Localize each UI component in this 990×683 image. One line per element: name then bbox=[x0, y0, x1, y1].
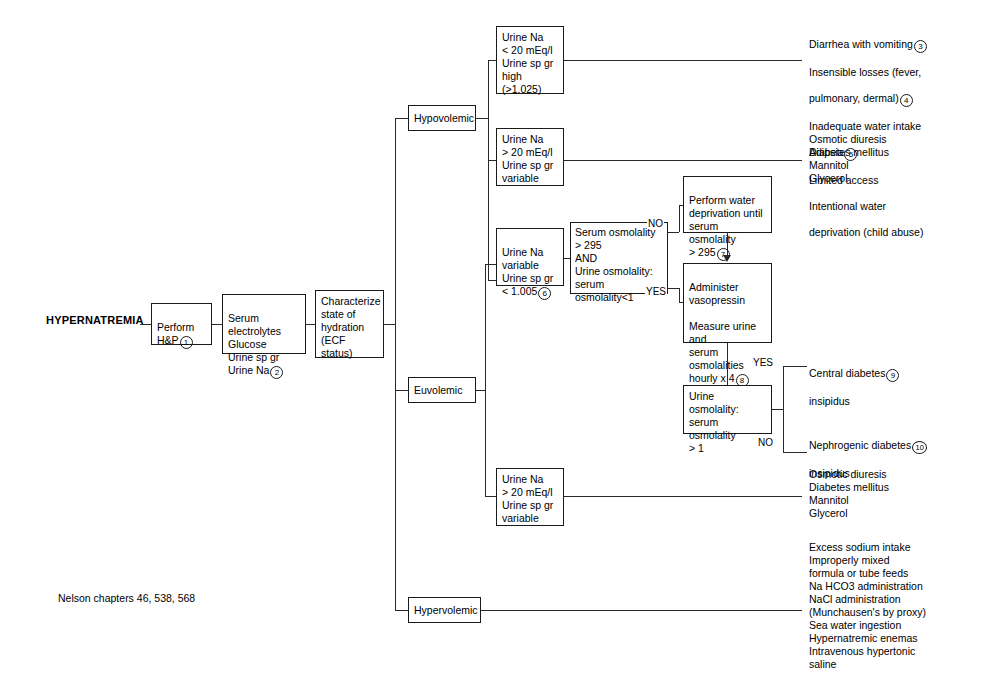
connector-euv-high-na-to-outcomes bbox=[564, 496, 802, 497]
connector-ratio-no bbox=[783, 452, 807, 453]
outcome-line-deprivation-abuse: deprivation (child abuse) bbox=[809, 226, 923, 238]
outcome-central-di-line2: insipidus bbox=[809, 395, 850, 407]
outcome-osmotic-diuresis-hypovolemic: Osmotic diuresis Diabetes mellitus Manni… bbox=[809, 133, 984, 185]
connector-hypo-branch-1 bbox=[488, 60, 496, 61]
node-hypervolemic[interactable]: Hypervolemic bbox=[408, 597, 481, 623]
outcome-line-inadequate-intake: Inadequate water intake bbox=[809, 120, 921, 132]
connector-hypo-high-na-to-outcomes bbox=[564, 160, 802, 161]
connector-serum-osm-yes bbox=[668, 288, 679, 289]
outcome-nephrogenic-di-line1: Nephrogenic diabetes bbox=[809, 439, 911, 451]
outcome-hypervolemic-causes: Excess sodium intake Improperly mixed fo… bbox=[809, 541, 989, 671]
connector-to-hypovolemic bbox=[395, 118, 408, 119]
ref-number-3: 3 bbox=[914, 40, 927, 53]
label-yes-upper: YES bbox=[645, 286, 667, 297]
connector-to-euvolemic bbox=[395, 390, 408, 391]
connector-characterize-out bbox=[384, 324, 395, 325]
node-euv-urine-na-high[interactable]: Urine Na > 20 mEq/l Urine sp gr variable bbox=[496, 468, 564, 526]
connector-hypo-branch-3 bbox=[488, 280, 496, 281]
connector-serum-osm-no-vert bbox=[679, 205, 680, 232]
connector-euv-branch-1 bbox=[485, 264, 496, 265]
connector-hypovolemic-out bbox=[476, 118, 488, 119]
flowchart-canvas: HYPERNATREMIA Nelson chapters 46, 538, 5… bbox=[0, 0, 990, 683]
outcome-osmotic-diuresis-euvolemic: Osmotic diuresis Diabetes mellitus Manni… bbox=[809, 468, 984, 520]
connector-labs-to-characterize bbox=[306, 324, 315, 325]
node-hypo-urine-na-low[interactable]: Urine Na < 20 mEq/l Urine sp gr high (>1… bbox=[496, 26, 564, 94]
footnote-reference: Nelson chapters 46, 538, 568 bbox=[58, 592, 195, 604]
connector-hypervolemic-to-outcomes bbox=[481, 610, 802, 611]
node-water-deprivation[interactable]: Perform water deprivation until serum os… bbox=[683, 176, 772, 233]
outcome-line-diarrhea: Diarrhea with vomiting bbox=[809, 38, 913, 50]
node-euvolemic[interactable]: Euvolemic bbox=[408, 377, 476, 403]
label-yes-lower: YES bbox=[752, 357, 774, 368]
node-hypo-urine-na-high[interactable]: Urine Na > 20 mEq/l Urine sp gr variable bbox=[496, 128, 564, 186]
ref-number-1: 1 bbox=[180, 336, 193, 349]
connector-ratio-yes bbox=[783, 366, 807, 367]
node-administer-vasopressin[interactable]: Administer vasopressin Measure urine and… bbox=[683, 263, 772, 343]
connector-hypo-branch-2 bbox=[488, 160, 496, 161]
outcome-line-pulmonary: pulmonary, dermal) bbox=[809, 92, 899, 104]
connector-serum-osm-no bbox=[668, 232, 679, 233]
outcome-central-diabetes-insipidus: Central diabetes9 insipidus bbox=[809, 354, 984, 408]
ref-number-4: 4 bbox=[900, 94, 913, 107]
connector-hp-to-labs bbox=[212, 324, 222, 325]
node-administer-vasopressin-label: Administer vasopressin Measure urine and… bbox=[689, 281, 756, 384]
connector-euvolemic-vertical bbox=[485, 264, 486, 496]
node-urine-serum-osm-ratio[interactable]: Urine osmolality: serum osmolality > 1 bbox=[683, 385, 772, 434]
outcome-line-insensible: Insensible losses (fever, bbox=[809, 66, 921, 78]
connector-hypovolemic-vertical bbox=[488, 60, 489, 280]
connector-to-hypervolemic bbox=[395, 610, 408, 611]
connector-hypo-low-na-to-outcomes bbox=[564, 60, 802, 61]
node-euv-urine-na-variable[interactable]: Urine Na variable Urine sp gr < 1.0056 bbox=[496, 228, 564, 286]
connector-serum-osm-yes-vert bbox=[679, 288, 680, 302]
outcome-hypovolemic-low-urine-na: Diarrhea with vomiting3 Insensible losse… bbox=[809, 25, 989, 239]
node-initial-labs[interactable]: Serum electrolytes Glucose Urine sp gr U… bbox=[222, 294, 306, 354]
connector-euv-branch-2 bbox=[485, 496, 496, 497]
ref-number-2: 2 bbox=[270, 366, 283, 379]
node-serum-osmolality-check[interactable]: Serum osmolality > 295 AND Urine osmolal… bbox=[570, 222, 668, 294]
connector-ratio-vertical bbox=[783, 366, 784, 452]
connector-ratio-out bbox=[772, 409, 783, 410]
connector-volemic-trunk bbox=[395, 118, 396, 611]
connector-euvolemic-out bbox=[476, 390, 485, 391]
node-characterize-hydration[interactable]: Characterize state of hydration (ECF sta… bbox=[315, 290, 384, 358]
outcome-central-di-line1: Central diabetes bbox=[809, 367, 885, 379]
ref-number-10: 10 bbox=[912, 441, 927, 454]
page-title: HYPERNATREMIA bbox=[46, 314, 144, 326]
ref-number-9: 9 bbox=[886, 369, 899, 382]
ref-number-6: 6 bbox=[538, 287, 551, 300]
node-hypovolemic[interactable]: Hypovolemic bbox=[408, 105, 476, 131]
node-perform-hp[interactable]: Perform H&P1 bbox=[151, 303, 212, 345]
outcome-line-intentional-water: Intentional water bbox=[809, 200, 886, 212]
ref-number-7: 7 bbox=[717, 248, 730, 261]
label-no-lower: NO bbox=[757, 437, 774, 448]
label-no-upper: NO bbox=[647, 218, 664, 229]
